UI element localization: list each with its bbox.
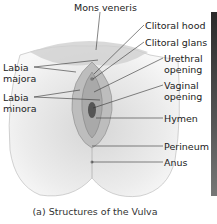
label-labia-majora: Labia majora — [3, 62, 37, 84]
label-mons-veneris: Mons veneris — [74, 2, 137, 13]
figure-caption: (a) Structures of the Vulva — [0, 206, 190, 217]
side-bar — [211, 12, 217, 196]
label-clitoral-glans: Clitoral glans — [145, 37, 207, 48]
label-anus: Anus — [164, 157, 188, 168]
label-vaginal-opening: Vaginal opening — [164, 80, 209, 102]
label-perineum: Perineum — [164, 141, 209, 152]
label-urethral-opening: Urethral opening — [164, 53, 209, 75]
label-hymen: Hymen — [164, 113, 198, 124]
label-clitoral-hood: Clitoral hood — [145, 20, 206, 31]
label-labia-minora: Labia minora — [3, 92, 37, 114]
vaginal-opening-shape — [88, 102, 96, 118]
